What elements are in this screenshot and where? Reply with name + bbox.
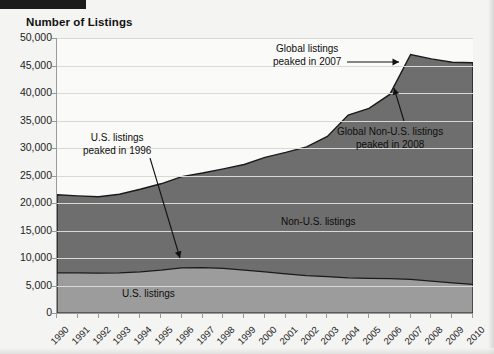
y-axis-tick-mark (52, 121, 56, 122)
annotation-global-peak: Global listings peaked in 2007 (273, 43, 341, 68)
gridline (57, 258, 473, 259)
x-axis-tick-mark (389, 314, 390, 318)
y-axis-tick-label: 50,000 (0, 31, 52, 43)
annotation-non-us-peak: Global Non-U.S. listings peaked in 2008 (337, 126, 443, 151)
y-axis-tick-mark (52, 176, 56, 177)
y-axis-tick-mark (52, 286, 56, 287)
y-axis-tick-label: 45,000 (0, 59, 52, 71)
y-axis-tick-label: 35,000 (0, 114, 52, 126)
scan-artifact-bar (0, 0, 86, 9)
y-axis-tick-mark (52, 38, 56, 39)
gridline (57, 231, 473, 232)
y-axis-tick-label: 5,000 (0, 279, 52, 291)
series-label-non-us-listings: Non-U.S. listings (281, 216, 355, 227)
y-axis-tick-label: 30,000 (0, 141, 52, 153)
gridline (57, 121, 473, 122)
series-label-us-listings: U.S. listings (122, 288, 175, 299)
gridline (57, 93, 473, 94)
y-axis-tick-label: 40,000 (0, 86, 52, 98)
x-axis-tick-mark (139, 314, 140, 318)
y-axis-tick-mark (52, 66, 56, 67)
x-axis-tick-mark (77, 314, 78, 318)
x-axis-tick-mark (368, 314, 369, 318)
annotation-global-peak-line1: Global listings (273, 43, 341, 56)
annotation-us-peak-line2: peaked in 1996 (83, 145, 151, 158)
chart-title: Number of Listings (26, 16, 133, 28)
y-axis: 05,00010,00015,00020,00025,00030,00035,0… (0, 38, 52, 313)
x-axis-tick-mark (326, 314, 327, 318)
x-axis-tick-mark (243, 314, 244, 318)
annotation-non-us-peak-line1: Global Non-U.S. listings (337, 126, 443, 139)
page-edge-shadow-right (488, 0, 494, 354)
y-axis-tick-mark (52, 203, 56, 204)
x-axis-tick-mark (181, 314, 182, 318)
x-axis-tick-mark (160, 314, 161, 318)
x-axis-tick-mark (430, 314, 431, 318)
x-axis-tick-mark (410, 314, 411, 318)
gridline (57, 203, 473, 204)
x-axis-tick-mark (98, 314, 99, 318)
gridline (57, 66, 473, 67)
gridline (57, 286, 473, 287)
gridline (57, 38, 473, 39)
x-axis-tick-mark (202, 314, 203, 318)
y-axis-tick-mark (52, 93, 56, 94)
y-axis-tick-mark (52, 148, 56, 149)
x-axis-tick-mark (347, 314, 348, 318)
x-axis-tick-mark (306, 314, 307, 318)
annotation-global-peak-line2: peaked in 2007 (273, 56, 341, 69)
y-axis-tick-mark (52, 258, 56, 259)
gridline (57, 176, 473, 177)
x-axis-tick-mark (472, 314, 473, 318)
annotation-us-peak: U.S. listings peaked in 1996 (83, 132, 151, 157)
x-axis: 1990199119921993199419951996199719981999… (56, 314, 472, 354)
y-axis-tick-label: 10,000 (0, 251, 52, 263)
x-axis-tick-mark (285, 314, 286, 318)
y-axis-tick-label: 0 (0, 306, 52, 318)
x-axis-tick-mark (118, 314, 119, 318)
x-axis-tick-mark (56, 314, 57, 318)
y-axis-tick-label: 15,000 (0, 224, 52, 236)
plot-area (56, 38, 473, 314)
annotation-non-us-peak-line2: peaked in 2008 (337, 139, 443, 152)
x-axis-tick-mark (264, 314, 265, 318)
y-axis-tick-label: 20,000 (0, 196, 52, 208)
y-axis-tick-mark (52, 231, 56, 232)
annotation-us-peak-line1: U.S. listings (83, 132, 151, 145)
x-axis-tick-mark (451, 314, 452, 318)
x-axis-tick-mark (222, 314, 223, 318)
y-axis-tick-label: 25,000 (0, 169, 52, 181)
